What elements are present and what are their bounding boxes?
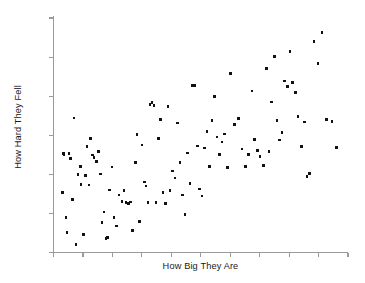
- data-point: [86, 145, 89, 148]
- data-point: [115, 225, 118, 228]
- data-point: [241, 148, 244, 151]
- data-point: [208, 165, 211, 168]
- data-point: [147, 201, 150, 204]
- axes-group: [54, 16, 349, 253]
- data-point: [136, 133, 139, 136]
- data-point: [174, 177, 177, 180]
- data-point: [99, 173, 102, 176]
- data-point: [125, 201, 128, 204]
- data-point: [134, 161, 137, 164]
- data-point: [121, 200, 124, 203]
- data-point: [89, 137, 92, 140]
- data-point: [259, 155, 262, 158]
- data-point: [106, 236, 109, 239]
- data-point: [251, 90, 254, 93]
- data-point: [198, 188, 201, 191]
- data-point: [162, 191, 165, 194]
- data-point: [289, 50, 292, 53]
- data-point: [131, 229, 134, 232]
- data-point: [73, 117, 76, 120]
- data-point: [80, 183, 83, 186]
- data-point: [82, 233, 85, 236]
- data-point: [123, 189, 126, 192]
- data-point: [325, 118, 328, 121]
- data-point: [291, 81, 294, 84]
- data-point: [184, 213, 187, 216]
- data-point: [308, 172, 311, 175]
- data-point: [221, 141, 224, 144]
- x-axis-label: How Big They Are: [53, 261, 348, 272]
- data-point: [68, 152, 71, 155]
- data-point: [193, 84, 196, 87]
- data-point: [77, 173, 80, 176]
- data-point: [268, 150, 271, 153]
- data-point: [229, 72, 232, 75]
- data-point: [155, 201, 158, 204]
- data-point: [75, 243, 78, 246]
- data-point: [71, 198, 74, 201]
- data-points-group: [61, 31, 337, 245]
- data-point: [256, 149, 259, 152]
- data-point: [91, 154, 94, 157]
- data-point: [206, 130, 209, 133]
- data-point: [129, 201, 132, 204]
- data-point: [145, 185, 148, 188]
- data-point: [111, 166, 114, 169]
- data-point: [171, 170, 174, 173]
- data-point: [176, 122, 179, 125]
- data-point: [179, 161, 182, 164]
- data-point: [84, 174, 87, 177]
- data-point: [95, 160, 98, 163]
- data-point: [321, 31, 324, 34]
- data-point: [151, 101, 154, 104]
- data-point: [157, 137, 160, 140]
- data-point: [247, 153, 250, 156]
- data-point: [331, 120, 334, 123]
- data-point: [113, 216, 116, 219]
- data-point: [313, 40, 316, 43]
- data-point: [153, 104, 156, 107]
- data-point: [143, 181, 146, 184]
- data-point: [286, 85, 289, 88]
- data-point: [69, 157, 72, 160]
- data-point: [97, 150, 100, 153]
- data-point: [278, 139, 281, 142]
- data-point: [213, 95, 216, 98]
- data-point: [306, 175, 309, 178]
- data-point: [191, 84, 194, 87]
- y-axis-label: How Hard They Fell: [13, 77, 23, 177]
- data-point: [317, 62, 320, 65]
- data-point: [262, 164, 265, 167]
- data-point: [335, 146, 338, 149]
- data-point: [127, 202, 130, 205]
- data-point: [118, 194, 121, 197]
- data-point: [164, 202, 167, 205]
- data-point: [108, 189, 111, 192]
- data-point: [283, 80, 286, 83]
- data-point: [189, 182, 192, 185]
- data-point: [167, 105, 170, 108]
- data-point: [66, 231, 69, 234]
- data-point: [211, 119, 214, 122]
- data-point: [63, 153, 66, 156]
- data-point: [201, 195, 204, 198]
- tick-marks-group: [49, 18, 348, 257]
- data-point: [223, 133, 226, 136]
- data-point: [169, 189, 172, 192]
- data-point: [103, 211, 106, 214]
- plot-canvas: [0, 0, 365, 283]
- data-point: [226, 166, 229, 169]
- data-point: [203, 147, 206, 150]
- data-point: [101, 221, 104, 224]
- data-point: [93, 156, 96, 159]
- data-point: [196, 145, 199, 148]
- scatter-plot-figure: How Big They Are How Hard They Fell: [0, 0, 365, 283]
- data-point: [65, 216, 68, 219]
- data-point: [297, 115, 300, 118]
- data-point: [237, 117, 240, 120]
- data-point: [186, 152, 189, 155]
- data-point: [218, 153, 221, 156]
- data-point: [233, 123, 236, 126]
- data-point: [294, 91, 297, 94]
- data-point: [300, 145, 303, 148]
